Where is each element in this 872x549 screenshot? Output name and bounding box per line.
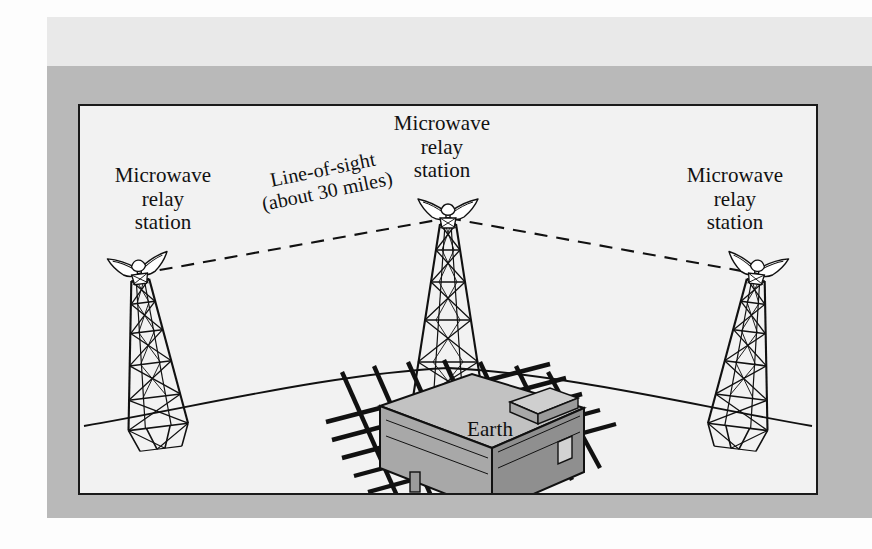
right-relay-tower <box>705 252 788 453</box>
label-left-relay-station: Microwave relay station <box>88 164 238 235</box>
label-right-relay-station: Microwave relay station <box>660 164 810 235</box>
left-relay-tower <box>107 252 190 453</box>
page-top-band <box>47 17 872 67</box>
label-earth: Earth <box>430 418 550 442</box>
center-horn-antenna <box>418 199 478 228</box>
figure-inner-panel: Microwave relay station Microwave relay … <box>78 104 818 495</box>
building-door-left <box>410 472 420 492</box>
figure-page: Microwave relay station Microwave relay … <box>0 0 872 549</box>
